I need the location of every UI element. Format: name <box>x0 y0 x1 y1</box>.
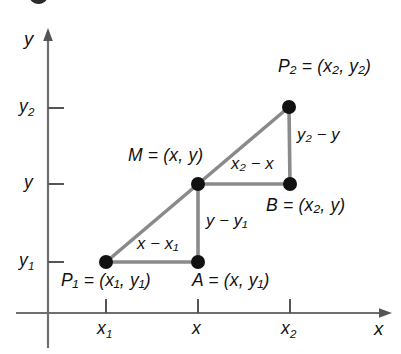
x-tick-label-x1: x1 <box>97 320 112 340</box>
x-tick-label-x2-base: x <box>281 318 290 338</box>
point-label-b: B = (x₂, y) <box>266 197 345 215</box>
point-dot-m <box>191 177 205 191</box>
x-tick-label-x: x <box>192 320 201 340</box>
diagram-canvas <box>0 0 401 354</box>
x-tick-label-x2-sub: 2 <box>290 328 296 340</box>
point-dot-b <box>283 177 297 191</box>
point-label-p1: P₁ = (x₁, y₁) <box>61 272 151 290</box>
y-axis-arrowhead <box>43 28 53 41</box>
x-axis-arrowhead <box>379 308 392 318</box>
y-axis-label: y <box>24 30 33 49</box>
y-tick-label-y2: y2 <box>19 98 34 118</box>
y-tick-label-y-base: y <box>24 172 33 192</box>
segment-label-x-minus-x1: x − x₁ <box>137 235 179 252</box>
point-dot-a <box>191 255 205 269</box>
point-label-m: M = (x, y) <box>128 147 203 165</box>
segment-b-p2 <box>289 107 290 184</box>
x-tick-label-x-base: x <box>192 318 201 338</box>
x-tick-label-x1-sub: 1 <box>106 328 112 340</box>
y-tick-label-y: y <box>24 174 33 194</box>
point-dot-p1 <box>99 255 113 269</box>
x-tick-label-x2: x2 <box>281 320 296 340</box>
x-axis-label: x <box>374 320 383 339</box>
segment-label-y-minus-y1: y − y₁ <box>206 212 248 229</box>
segment-label-x2-minus-x: x₂ − x <box>231 155 274 172</box>
x-tick-label-x1-base: x <box>97 318 106 338</box>
point-dot-p2 <box>282 100 296 114</box>
point-label-p2: P₂ = (x₂, y₂) <box>278 58 371 76</box>
y-tick-label-y2-base: y <box>19 96 28 116</box>
y-tick-label-y1-base: y <box>19 250 28 270</box>
y-tick-label-y1-sub: 1 <box>28 260 34 272</box>
y-tick-label-y2-sub: 2 <box>28 106 34 118</box>
point-label-a: A = (x, y₁) <box>192 272 270 290</box>
segment-label-y2-minus-y: y₂ − y <box>297 126 340 143</box>
y-tick-label-y1: y1 <box>19 252 34 272</box>
midpoint-diagram: y x y2 y y1 x1 x x2 P₂ = (x₂, y₂) M = (x… <box>0 0 401 354</box>
